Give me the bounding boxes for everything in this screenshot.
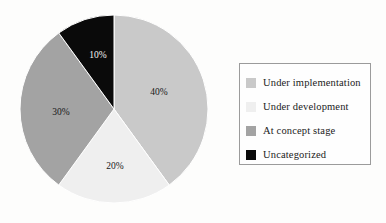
pie-chart: 40%20%30%10%: [19, 14, 209, 204]
legend-color-swatch-icon: [246, 78, 256, 88]
pie-slice-value-label: 10%: [89, 50, 107, 60]
pie-slice-group: [20, 15, 208, 203]
pie-slice-value-label: 30%: [52, 107, 70, 117]
chart-legend: Under implementationUnder developmentAt …: [239, 63, 371, 165]
pie-chart-figure: 40%20%30%10% Under implementationUnder d…: [0, 0, 386, 223]
legend-item[interactable]: Under development: [246, 96, 370, 118]
legend-item-label: At concept stage: [263, 126, 335, 137]
legend-item[interactable]: At concept stage: [246, 120, 370, 142]
legend-item-label: Uncategorized: [263, 150, 326, 161]
pie-slice-value-label: 40%: [150, 87, 168, 97]
legend-item-label: Under implementation: [263, 78, 361, 89]
legend-color-swatch-icon: [246, 102, 256, 112]
legend-item-label: Under development: [263, 102, 349, 113]
legend-color-swatch-icon: [246, 150, 256, 160]
pie-chart-svg: 40%20%30%10%: [19, 14, 209, 204]
legend-color-swatch-icon: [246, 126, 256, 136]
legend-item[interactable]: Uncategorized: [246, 144, 370, 166]
pie-slice-value-label: 20%: [106, 161, 124, 171]
legend-item[interactable]: Under implementation: [246, 72, 370, 94]
